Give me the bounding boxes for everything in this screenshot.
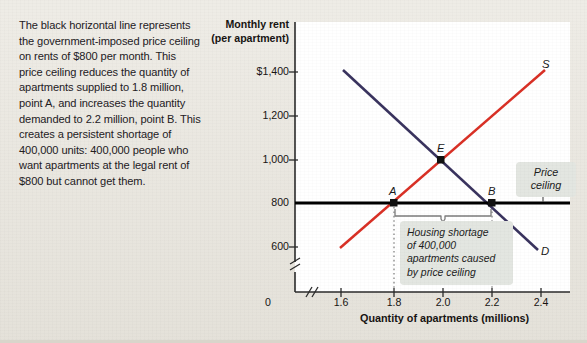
shortage-text-line4: by price ceiling — [407, 266, 507, 279]
x-axis-origin-label: 0 — [265, 296, 271, 308]
point-marker-E — [437, 156, 445, 164]
shortage-text-line1: Housing shortage — [407, 226, 507, 239]
point-label-E: E — [437, 142, 444, 154]
y-axis-title-line1: Monthly rent — [209, 18, 289, 32]
price-ceiling-label-line1: Price — [519, 166, 573, 179]
point-marker-B — [488, 199, 496, 207]
y-tick-label-800: 800 — [229, 196, 289, 208]
y-axis-title: Monthly rent (per apartment) — [209, 18, 289, 45]
x-tick-label-2-0: 2.0 — [423, 296, 463, 308]
supply-curve-label: S — [542, 58, 550, 70]
point-label-B: B — [488, 185, 495, 197]
x-tick-label-1-8: 1.8 — [374, 296, 414, 308]
y-axis-title-line2: (per apartment) — [209, 32, 289, 46]
y-tick-label-1000: 1,000 — [229, 153, 289, 165]
point-label-A: A — [389, 185, 396, 197]
y-tick-label-600: 600 — [229, 240, 289, 252]
chart-vector-layer — [0, 0, 587, 343]
point-marker-A — [390, 199, 398, 207]
shortage-text-line2: of 400,000 — [407, 239, 507, 252]
x-tick-label-2-4: 2.4 — [521, 296, 561, 308]
price-ceiling-figure: The black horizontal line represents the… — [0, 0, 587, 343]
price-ceiling-label-line2: ceiling — [519, 179, 573, 192]
x-axis-title: Quantity of apartments (millions) — [360, 312, 529, 324]
x-tick-label-1-6: 1.6 — [321, 296, 361, 308]
price-ceiling-callout: Price ceiling — [516, 162, 576, 197]
demand-curve-label: D — [541, 245, 549, 257]
shortage-text-line3: apartments caused — [407, 252, 507, 265]
housing-shortage-callout: Housing shortage of 400,000 apartments c… — [400, 221, 513, 285]
y-tick-label-1400: $1,400 — [229, 65, 289, 77]
x-tick-label-2-2: 2.2 — [472, 296, 512, 308]
y-tick-label-1200: 1,200 — [229, 109, 289, 121]
